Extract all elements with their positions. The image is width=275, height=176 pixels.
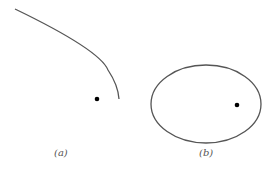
panel-label-b: (b) (199, 147, 213, 158)
diagram-canvas (0, 0, 275, 176)
panel-label-a: (a) (54, 147, 68, 158)
ellipse-curve (151, 65, 261, 143)
focus-dot-b (235, 103, 240, 108)
parabola-curve (15, 9, 119, 99)
focus-dot-a (95, 97, 100, 102)
